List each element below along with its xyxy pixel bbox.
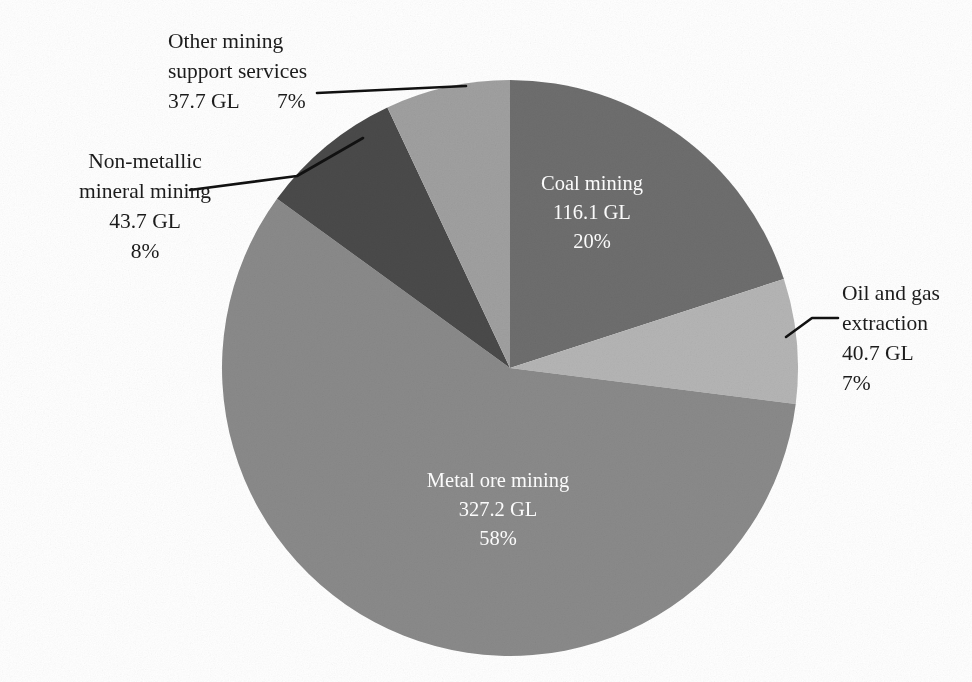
callout-oil-gas-line2: extraction xyxy=(842,311,928,335)
pie-slices xyxy=(222,80,798,656)
callout-non-metallic-mineral-mining: Non-metallic mineral mining 43.7 GL 8% xyxy=(79,149,211,263)
inside-label-metal-ore-value: 327.2 GL xyxy=(459,498,538,520)
callout-oil-and-gas-extraction: Oil and gas extraction 40.7 GL 7% xyxy=(842,281,940,395)
callout-other-mining-line1: Other mining xyxy=(168,29,283,53)
callout-other-mining-value: 37.7 GL xyxy=(168,89,240,113)
callout-other-mining-line2: support services xyxy=(168,59,307,83)
callout-other-mining-support-services: Other mining support services 37.7 GL 7% xyxy=(168,29,307,113)
callout-non-metallic-value: 43.7 GL xyxy=(109,209,181,233)
callout-other-mining-percent: 7% xyxy=(277,89,306,113)
inside-label-coal-value: 116.1 GL xyxy=(553,201,631,223)
callout-oil-gas-percent: 7% xyxy=(842,371,871,395)
inside-label-metal-ore-percent: 58% xyxy=(479,527,517,549)
callout-non-metallic-line2: mineral mining xyxy=(79,179,211,203)
callout-non-metallic-line1: Non-metallic xyxy=(88,149,201,173)
callout-oil-gas-value: 40.7 GL xyxy=(842,341,914,365)
inside-label-coal-line1: Coal mining xyxy=(541,172,643,195)
callout-oil-gas-line1: Oil and gas xyxy=(842,281,940,305)
callout-non-metallic-percent: 8% xyxy=(131,239,160,263)
pie-chart-figure: Other mining support services 37.7 GL 7%… xyxy=(0,0,972,682)
pie-chart-canvas: Other mining support services 37.7 GL 7%… xyxy=(0,0,972,682)
inside-label-coal-percent: 20% xyxy=(573,230,611,252)
inside-label-metal-ore-line1: Metal ore mining xyxy=(427,469,569,492)
